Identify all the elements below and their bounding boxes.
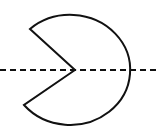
geometry-diagram (0, 0, 164, 135)
